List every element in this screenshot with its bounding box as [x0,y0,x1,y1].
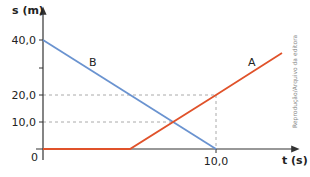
series-a-label: A [248,56,256,69]
series-b-label: B [89,56,97,69]
origin-label: 0 [31,151,38,164]
y-tick-label: 40,0 [12,34,37,47]
x-tick-label: 10,0 [204,155,229,168]
y-tick-label: 20,0 [12,89,37,102]
y-axis-label: s (m) [12,4,44,17]
chart: 40,0 20,0 10,0 0 10,0 s (m) t (s) B A Re… [0,0,310,177]
guide-lines [43,95,216,149]
x-axis-label: t (s) [282,154,308,167]
y-ticks [39,40,216,153]
y-tick-label: 10,0 [12,116,37,129]
series-a-line [43,53,282,149]
credit-text: Reprodução/Arquivo da editora [291,34,299,128]
